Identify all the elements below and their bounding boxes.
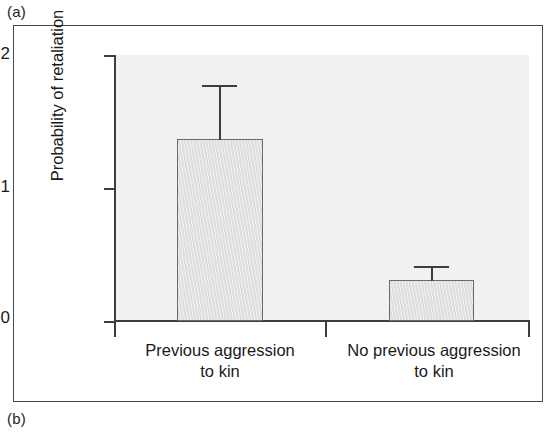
- y-tick-label-0.1: 0.1: [0, 177, 10, 197]
- y-tick-label-0: 0: [0, 308, 10, 328]
- x-category-label-previous-aggression: Previous aggression to kin: [110, 340, 330, 382]
- errorbar-cap-no-previous-aggression: [414, 266, 449, 268]
- x-category-label-no-previous-aggression: No previous aggression to kin: [324, 340, 544, 382]
- figure-frame: 0.2 0.1 0 Previous aggression to kin No …: [13, 25, 543, 402]
- bar-no-previous-aggression[interactable]: [389, 280, 474, 321]
- panel-label-a: (a): [7, 3, 26, 20]
- errorbar-stem-previous-aggression: [219, 86, 221, 140]
- panel-label-b: (b): [7, 410, 26, 427]
- y-tick-label-0.2: 0.2: [0, 44, 10, 64]
- bar-chart: 0.2 0.1 0 Previous aggression to kin No …: [14, 26, 542, 401]
- bar-previous-aggression[interactable]: [177, 139, 263, 321]
- y-tick-mark-0.2: [104, 55, 115, 57]
- errorbar-cap-previous-aggression: [202, 85, 237, 87]
- y-axis-title: Probability of retaliation: [48, 0, 67, 201]
- x-tick-middle: [325, 322, 327, 337]
- x-tick-left: [114, 322, 116, 337]
- x-tick-right: [528, 322, 530, 337]
- errorbar-stem-no-previous-aggression: [431, 267, 433, 281]
- y-tick-mark-0.1: [104, 188, 115, 190]
